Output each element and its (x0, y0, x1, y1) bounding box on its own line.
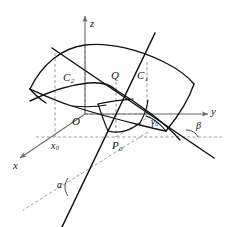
curve-label-c1-letter: C (137, 69, 144, 81)
x0-sub: 0 (56, 144, 59, 151)
beta-arc (186, 130, 198, 137)
point-label-x0: x0 (51, 141, 59, 152)
figure-canvas: z y x O Q C2 C1 γ0 x0 P0 α β (0, 0, 231, 227)
gamma0-sub: 0 (155, 120, 158, 127)
curve-label-c1-sub: 1 (145, 75, 149, 83)
curve-c2-path (30, 83, 116, 101)
p0-letter: P (112, 139, 119, 151)
curve-label-c1: C1 (137, 70, 148, 83)
angle-arcs (65, 130, 198, 196)
tangent-line-steep (62, 33, 155, 227)
point-label-gamma0: γ0 (151, 117, 158, 128)
origin-label-O: O (72, 116, 80, 127)
point-label-p0: P0 (112, 140, 123, 153)
x0-letter: x (51, 140, 55, 151)
axis-label-y: y (211, 106, 216, 117)
curve-label-c2-letter: C (63, 71, 70, 83)
alpha-arc (65, 178, 68, 196)
p0-sub: 0 (119, 145, 123, 153)
tangent-line-steep-path (62, 33, 155, 227)
curve-label-c2-sub: 2 (71, 77, 75, 85)
axis-label-x: x (13, 160, 18, 171)
curve-c2 (30, 83, 116, 101)
axis-label-z: z (90, 18, 94, 29)
angle-label-beta: β (196, 121, 201, 131)
angle-label-alpha: α (57, 180, 62, 190)
tangent-patch-left-edge (98, 104, 108, 131)
point-label-Q: Q (111, 70, 119, 81)
dashed-construction-lines (23, 45, 222, 210)
surface-edge-right (166, 84, 194, 131)
curve-label-c2: C2 (63, 72, 74, 85)
surface-rule-left (30, 89, 46, 103)
diagram-svg (0, 0, 231, 227)
inner-rule-1 (72, 105, 106, 107)
